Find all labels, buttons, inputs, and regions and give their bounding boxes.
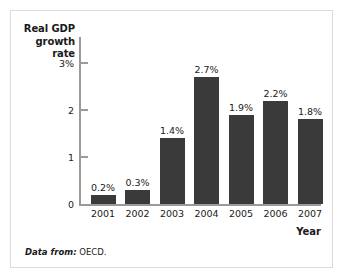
- bar: [160, 138, 185, 204]
- bar-value-label: 1.8%: [290, 106, 330, 117]
- x-tick-label: 2007: [290, 208, 330, 219]
- source-note: Data from: OECD.: [25, 247, 107, 257]
- bar: [125, 190, 150, 204]
- bar: [263, 101, 288, 204]
- y-tick-label: 2: [34, 105, 74, 116]
- y-tick-label: 0: [34, 199, 74, 210]
- bar-value-label: 1.9%: [221, 102, 261, 113]
- y-tick-mark: [81, 156, 88, 158]
- chart-figure: Real GDP growth rate 0123% 0.2%0.3%1.4%2…: [10, 10, 333, 268]
- bar: [91, 195, 116, 204]
- x-axis-title: Year: [296, 226, 321, 237]
- bar-chart-plot: Real GDP growth rate 0123% 0.2%0.3%1.4%2…: [11, 11, 334, 269]
- bar: [229, 115, 254, 204]
- y-tick-label: 1: [34, 152, 74, 163]
- bar: [298, 119, 323, 204]
- source-note-label: Data from:: [25, 247, 77, 257]
- bar: [194, 77, 219, 204]
- bar-value-label: 1.4%: [152, 125, 192, 136]
- y-tick-mark: [81, 109, 88, 111]
- y-tick-label: 3%: [34, 58, 74, 69]
- source-note-value: OECD.: [79, 247, 106, 257]
- y-tick-mark: [81, 62, 88, 64]
- bar-value-label: 2.2%: [256, 88, 296, 99]
- y-axis-title: Real GDP growth rate: [17, 23, 75, 61]
- x-axis-line: [79, 204, 321, 206]
- bar-value-label: 0.3%: [118, 177, 158, 188]
- bar-value-label: 2.7%: [187, 64, 227, 75]
